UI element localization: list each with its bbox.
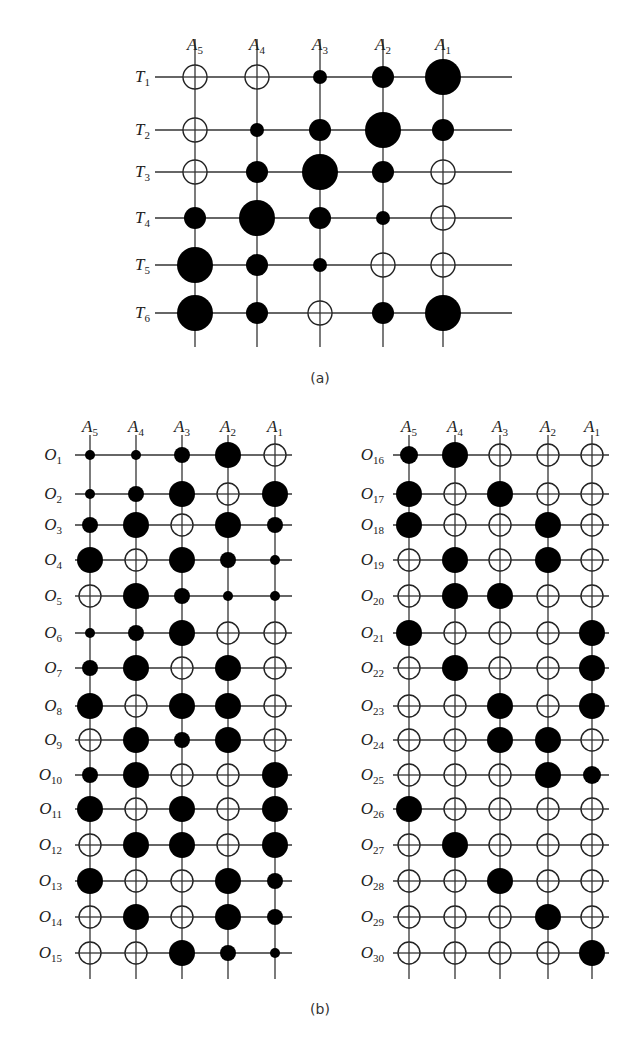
filled-circle-size-1 (250, 123, 264, 137)
column-header: A4 (248, 35, 265, 56)
row-label: O26 (361, 799, 385, 820)
filled-circle-size-3 (215, 655, 241, 681)
part-b-left-matrix: A5A4A3A2A1O1O2O3O4O5O6O7O8O9O10O11O12O13… (39, 417, 292, 979)
filled-circle-size-2 (220, 945, 236, 961)
column-header: A3 (311, 35, 328, 56)
part-a-matrix: A5A4A3A2A1T1T2T3T4T5T6 (135, 35, 512, 347)
row-label: O16 (361, 445, 385, 466)
filled-circle-size-1 (270, 591, 280, 601)
filled-circle-size-3 (535, 762, 561, 788)
caption-a: (a) (310, 370, 330, 386)
filled-circle-size-3 (487, 727, 513, 753)
filled-circle-size-2 (309, 207, 331, 229)
filled-circle-size-3 (123, 762, 149, 788)
filled-circle-size-4 (239, 200, 275, 236)
row-label: O17 (361, 484, 385, 505)
filled-circle-size-3 (169, 832, 195, 858)
row-label: O14 (39, 907, 63, 928)
row-label: O28 (361, 871, 385, 892)
caption-b: (b) (310, 1001, 330, 1017)
filled-circle-size-2 (128, 486, 144, 502)
filled-circle-size-2 (267, 873, 283, 889)
filled-circle-size-3 (442, 832, 468, 858)
row-label: O9 (44, 730, 62, 751)
filled-circle-size-4 (365, 112, 401, 148)
row-label: O8 (44, 696, 62, 717)
filled-circle-size-3 (77, 547, 103, 573)
row-label: O12 (39, 835, 62, 856)
filled-circle-size-3 (215, 904, 241, 930)
row-label: O5 (44, 586, 62, 607)
filled-circle-size-3 (169, 940, 195, 966)
filled-circle-size-3 (169, 693, 195, 719)
filled-circle-size-2 (174, 588, 190, 604)
filled-circle-size-1 (313, 70, 327, 84)
filled-circle-size-3 (396, 620, 422, 646)
column-header: A2 (374, 35, 391, 56)
row-label: O22 (361, 658, 384, 679)
filled-circle-size-4 (302, 154, 338, 190)
row-label: O11 (39, 799, 62, 820)
filled-circle-size-3 (535, 727, 561, 753)
filled-circle-size-3 (215, 727, 241, 753)
row-label: O20 (361, 586, 385, 607)
filled-circle-size-2 (246, 161, 268, 183)
row-label: T3 (135, 162, 150, 183)
column-header: A1 (266, 417, 283, 438)
filled-circle-size-3 (579, 693, 605, 719)
filled-circle-size-3 (442, 583, 468, 609)
column-header: A5 (81, 417, 98, 438)
filled-circle-size-3 (442, 655, 468, 681)
filled-circle-size-1 (270, 948, 280, 958)
filled-circle-size-3 (442, 442, 468, 468)
filled-circle-size-3 (123, 583, 149, 609)
filled-circle-size-3 (77, 796, 103, 822)
column-header: A1 (583, 417, 600, 438)
filled-circle-size-3 (487, 693, 513, 719)
filled-circle-size-1 (85, 628, 95, 638)
filled-circle-size-1 (376, 211, 390, 225)
filled-circle-size-3 (123, 904, 149, 930)
row-label: O19 (361, 550, 385, 571)
filled-circle-size-3 (77, 868, 103, 894)
row-label: T5 (135, 255, 150, 276)
filled-circle-size-3 (215, 868, 241, 894)
filled-circle-size-2 (372, 161, 394, 183)
column-header: A1 (434, 35, 451, 56)
filled-circle-size-2 (309, 119, 331, 141)
row-label: T2 (135, 120, 150, 141)
column-header: A4 (446, 417, 463, 438)
row-label: O3 (44, 515, 62, 536)
row-label: O18 (361, 515, 385, 536)
part-b-right-matrix: A5A4A3A2A1O16O17O18O19O20O21O22O23O24O25… (361, 417, 609, 979)
filled-circle-size-3 (535, 512, 561, 538)
filled-circle-size-3 (169, 547, 195, 573)
filled-circle-size-2 (267, 517, 283, 533)
column-header: A3 (173, 417, 190, 438)
filled-circle-size-3 (262, 832, 288, 858)
filled-circle-size-2 (220, 552, 236, 568)
column-header: A2 (219, 417, 236, 438)
filled-circle-size-3 (262, 762, 288, 788)
row-label: O10 (39, 765, 63, 786)
row-label: T4 (135, 208, 150, 229)
filled-circle-size-3 (169, 796, 195, 822)
filled-circle-size-3 (215, 693, 241, 719)
filled-circle-size-2 (432, 119, 454, 141)
column-header: A4 (127, 417, 144, 438)
filled-circle-size-1 (313, 258, 327, 272)
matrix-figure: A5A4A3A2A1T1T2T3T4T5T6 (a) A5A4A3A2A1O1O… (0, 0, 642, 1038)
filled-circle-size-3 (77, 693, 103, 719)
filled-circle-size-2 (174, 732, 190, 748)
filled-circle-size-4 (177, 247, 213, 283)
filled-circle-size-3 (579, 655, 605, 681)
filled-circle-size-3 (396, 796, 422, 822)
filled-circle-size-2 (184, 207, 206, 229)
filled-circle-size-3 (487, 481, 513, 507)
filled-circle-size-1 (85, 450, 95, 460)
filled-circle-size-2 (82, 767, 98, 783)
filled-circle-size-3 (215, 512, 241, 538)
column-header: A3 (491, 417, 508, 438)
filled-circle-size-1 (270, 555, 280, 565)
filled-circle-size-2 (246, 254, 268, 276)
